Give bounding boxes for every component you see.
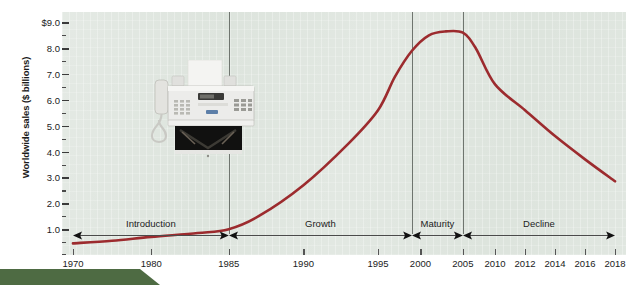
x-axis-tick-label: 1970 [62, 258, 83, 269]
x-axis-tick-label: 2018 [604, 258, 625, 269]
stage-span-arrow-introduction [73, 227, 229, 238]
x-axis-tick-label: 1990 [293, 258, 314, 269]
y-axis-tick-label: 5.0 [47, 120, 60, 131]
x-axis-tick-label: 1980 [141, 258, 162, 269]
x-axis-tick-label: 2016 [574, 258, 595, 269]
stage-span-arrow-maturity [412, 227, 463, 238]
y-axis-tick-label: 3.0 [47, 172, 60, 183]
y-axis-tick-label: 7.0 [47, 69, 60, 80]
y-axis-tick-label: 6.0 [47, 94, 60, 105]
product-life-cycle-chart: Worldwide sales ($ billions) $9.08.07.06… [0, 0, 639, 285]
x-axis-tick-label: 2005 [452, 258, 473, 269]
x-axis-tick-label: 2014 [544, 258, 565, 269]
y-axis-tick-label: 4.0 [47, 146, 60, 157]
y-axis-tick-label: $9.0 [42, 17, 61, 28]
y-axis-tick-labels: $9.08.07.06.05.04.03.02.01.0 [14, 0, 60, 260]
y-axis-tick-label: 1.0 [47, 224, 60, 235]
y-axis-tick-label: 2.0 [47, 198, 60, 209]
x-axis-tick-label: 2000 [410, 258, 431, 269]
stage-span-arrow-growth [229, 227, 412, 238]
bottom-green-banner [0, 269, 160, 285]
x-axis-tick-label: 1995 [367, 258, 388, 269]
plot-area: IntroductionGrowthMaturityDecline [62, 12, 626, 255]
y-axis-tick-label: 8.0 [47, 43, 60, 54]
stage-span-arrow-decline [463, 227, 615, 238]
x-axis-tick-label: 2010 [484, 258, 505, 269]
x-axis-tick-label: 2012 [514, 258, 535, 269]
fax-machine-photo [148, 60, 260, 160]
x-axis-tick-label: 1985 [218, 258, 239, 269]
